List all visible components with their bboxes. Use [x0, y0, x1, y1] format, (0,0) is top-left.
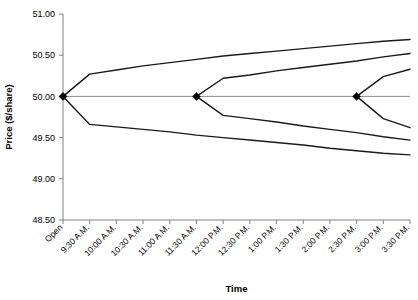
- chart-canvas: 48.5049.0049.5050.0050.5051.00 Open9:30 …: [0, 0, 418, 300]
- series-line: [63, 96, 410, 155]
- y-axis-tick-label: 51.00: [32, 9, 55, 19]
- x-axis-tick-label: 3:30 P.M.: [379, 222, 411, 254]
- x-axis-tick-label: 1:30 P.M.: [273, 222, 305, 254]
- x-axis-tick-label: Open: [43, 222, 65, 244]
- series-line: [357, 69, 410, 96]
- x-axis-tick-label: 3:00 P.M.: [353, 222, 385, 254]
- x-axis-title: Time: [225, 283, 247, 294]
- x-axis-tick-label: 2:00 P.M.: [299, 222, 331, 254]
- axis-titles: TimePrice ($/share): [3, 84, 248, 294]
- y-axis-tick-label: 50.50: [32, 50, 55, 60]
- x-axis-tick-label: 2:30 P.M.: [326, 222, 358, 254]
- series-line: [196, 54, 410, 97]
- y-axis-tick-label: 48.50: [32, 215, 55, 225]
- y-axis: 48.5049.0049.5050.0050.5051.00: [32, 9, 63, 225]
- series-line: [357, 96, 410, 127]
- x-axis-tick-label: 1:00 P.M.: [246, 222, 278, 254]
- y-axis-tick-label: 50.00: [32, 92, 55, 102]
- y-axis-title: Price ($/share): [3, 84, 14, 149]
- price-cone-chart: 48.5049.0049.5050.0050.5051.00 Open9:30 …: [0, 0, 418, 300]
- series-line: [63, 40, 410, 97]
- y-axis-tick-label: 49.50: [32, 133, 55, 143]
- y-axis-tick-label: 49.00: [32, 174, 55, 184]
- series-line: [196, 96, 410, 140]
- x-axis: Open9:30 A.M.10:00 A.M.10:30 A.M.11:00 A…: [43, 220, 412, 258]
